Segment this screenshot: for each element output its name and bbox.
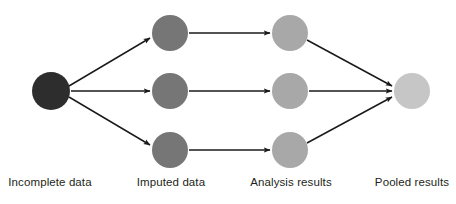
- stage-label-imputed-data: Imputed data: [137, 176, 205, 188]
- edge-incomplete-imputed-1: [69, 38, 150, 86]
- stage-label-incomplete-data: Incomplete data: [8, 176, 91, 188]
- stage-label-analysis-results: Analysis results: [250, 176, 332, 188]
- flow-graphics: [0, 0, 456, 204]
- node-analysis-3: [272, 132, 308, 168]
- edge-analysis-pooled-1: [307, 40, 392, 86]
- node-analysis-2: [272, 73, 308, 109]
- edge-incomplete-imputed-3: [69, 97, 150, 145]
- stage-label-pooled-results: Pooled results: [375, 176, 449, 188]
- node-pooled-1: [394, 73, 430, 109]
- node-imputed-3: [152, 132, 188, 168]
- node-imputed-2: [152, 73, 188, 109]
- node-incomplete-1: [32, 72, 70, 110]
- edges-layer: [69, 33, 392, 150]
- imputation-flow-diagram: Incomplete dataImputed dataAnalysis resu…: [0, 0, 456, 204]
- node-imputed-1: [152, 15, 188, 51]
- edge-analysis-pooled-3: [307, 97, 392, 143]
- node-analysis-1: [272, 15, 308, 51]
